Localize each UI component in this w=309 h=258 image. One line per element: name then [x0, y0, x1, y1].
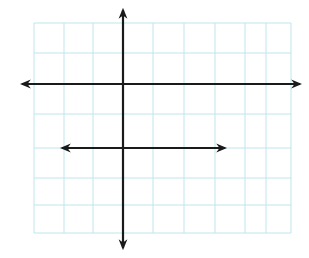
grid: [34, 23, 291, 233]
coordinate-grid-diagram: [0, 0, 309, 258]
